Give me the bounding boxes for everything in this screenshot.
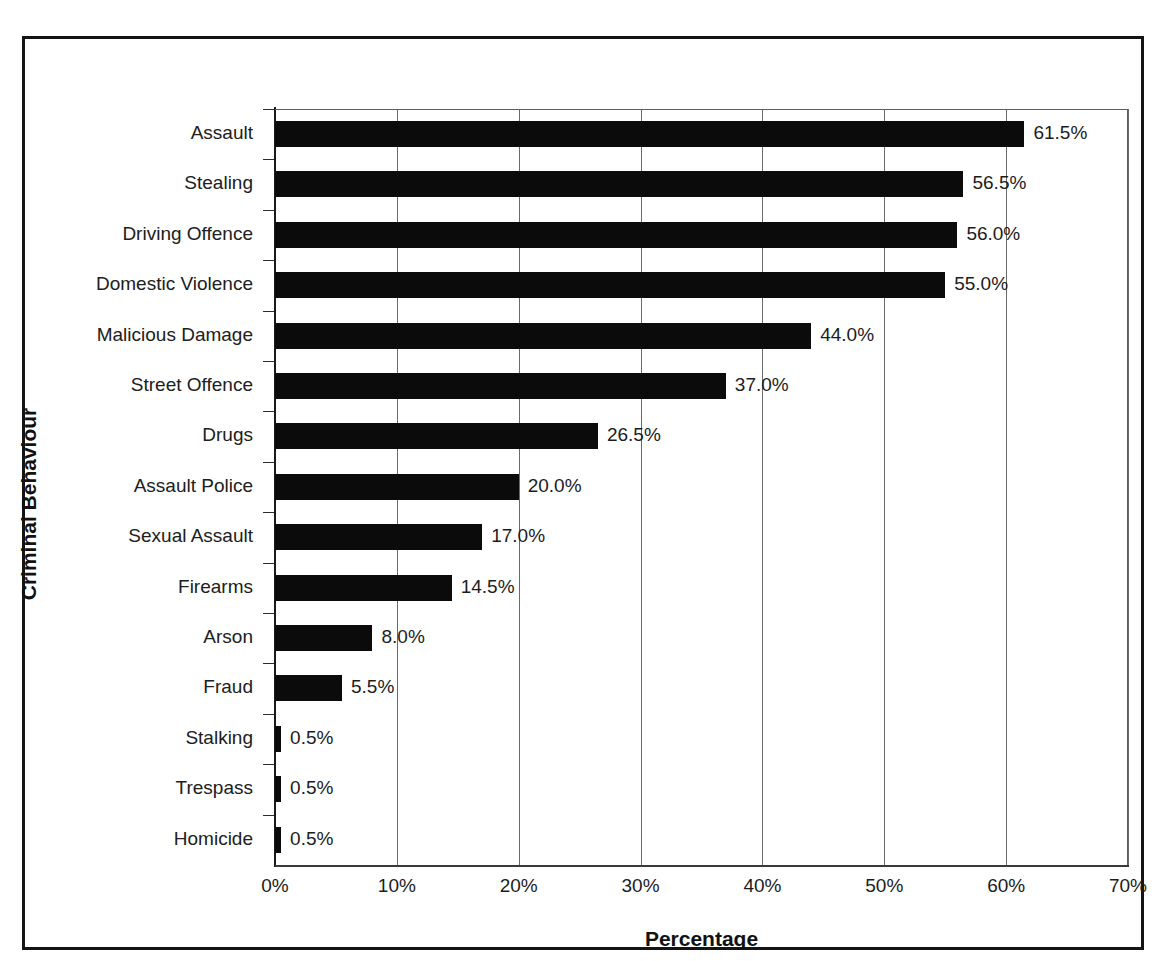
y-axis-tick	[263, 361, 274, 362]
category-label: Arson	[203, 624, 253, 650]
y-axis-tick	[263, 613, 274, 614]
y-axis-tick	[263, 815, 274, 816]
y-axis-tick	[263, 714, 274, 715]
bar-row: Driving Offence56.0%	[275, 210, 1128, 260]
bar-value-label: 56.0%	[957, 221, 1020, 247]
bar-value-label: 17.0%	[482, 523, 545, 549]
bar	[275, 121, 1024, 147]
bar-row: Trespass0.5%	[275, 764, 1128, 814]
bar-value-label: 0.5%	[281, 725, 333, 751]
y-axis-tick	[263, 512, 274, 513]
x-tick-label: 40%	[743, 875, 781, 897]
bar	[275, 222, 957, 248]
bar-row: Stealing56.5%	[275, 159, 1128, 209]
bar	[275, 625, 372, 651]
bar-value-label: 56.5%	[963, 170, 1026, 196]
bar	[275, 373, 726, 399]
x-tick-label: 50%	[865, 875, 903, 897]
bar-row: Street Offence37.0%	[275, 361, 1128, 411]
category-label: Fraud	[203, 674, 253, 700]
bar-row: Drugs26.5%	[275, 411, 1128, 461]
category-label: Street Offence	[131, 372, 253, 398]
category-label: Stalking	[185, 725, 253, 751]
bar	[275, 675, 342, 701]
bar-row: Arson8.0%	[275, 613, 1128, 663]
bar	[275, 171, 963, 197]
y-axis-tick	[263, 159, 274, 160]
plot-area: Assault61.5%Stealing56.5%Driving Offence…	[275, 109, 1128, 865]
y-axis-title: Criminal Behaviour	[17, 339, 41, 669]
bar-row: Firearms14.5%	[275, 563, 1128, 613]
category-label: Homicide	[174, 826, 253, 852]
y-axis-tick	[263, 260, 274, 261]
bar	[275, 423, 598, 449]
category-label: Firearms	[178, 574, 253, 600]
bar-value-label: 55.0%	[945, 271, 1008, 297]
bar-row: Sexual Assault17.0%	[275, 512, 1128, 562]
bar-value-label: 0.5%	[281, 826, 333, 852]
category-label: Domestic Violence	[96, 271, 253, 297]
bar-value-label: 61.5%	[1024, 120, 1087, 146]
x-axis-title: Percentage	[275, 927, 1128, 951]
bar-row: Domestic Violence55.0%	[275, 260, 1128, 310]
bar-value-label: 5.5%	[342, 674, 394, 700]
y-axis-tick	[263, 462, 274, 463]
y-axis-tick	[263, 563, 274, 564]
x-tick-label: 70%	[1109, 875, 1147, 897]
bar-row: Fraud5.5%	[275, 663, 1128, 713]
bar	[275, 524, 482, 550]
x-axis-line	[275, 865, 1129, 867]
bar	[275, 323, 811, 349]
x-tick-label: 60%	[987, 875, 1025, 897]
category-label: Drugs	[202, 422, 253, 448]
y-axis-tick	[263, 311, 274, 312]
category-label: Assault Police	[134, 473, 253, 499]
bar-value-label: 37.0%	[726, 372, 789, 398]
y-axis-tick	[263, 764, 274, 765]
bar-row: Assault61.5%	[275, 109, 1128, 159]
y-axis-tick	[263, 109, 274, 110]
bar-row: Stalking0.5%	[275, 714, 1128, 764]
x-tick-label: 30%	[622, 875, 660, 897]
bar-value-label: 44.0%	[811, 322, 874, 348]
bar-row: Assault Police20.0%	[275, 462, 1128, 512]
bar-value-label: 20.0%	[519, 473, 582, 499]
category-label: Sexual Assault	[128, 523, 253, 549]
bar	[275, 474, 519, 500]
y-axis-tick	[263, 411, 274, 412]
x-tick-label: 10%	[378, 875, 416, 897]
x-tick-label: 20%	[500, 875, 538, 897]
figure-frame: Assault61.5%Stealing56.5%Driving Offence…	[22, 36, 1144, 950]
bar-value-label: 0.5%	[281, 775, 333, 801]
gridline-70	[1128, 109, 1129, 865]
bar	[275, 575, 452, 601]
bar	[275, 272, 945, 298]
category-label: Malicious Damage	[97, 322, 253, 348]
bar-value-label: 8.0%	[372, 624, 424, 650]
y-axis-tick	[263, 663, 274, 664]
x-tick-label: 0%	[261, 875, 288, 897]
category-label: Stealing	[184, 170, 253, 196]
category-label: Assault	[191, 120, 253, 146]
bar-value-label: 14.5%	[452, 574, 515, 600]
bar-value-label: 26.5%	[598, 422, 661, 448]
y-axis-tick	[263, 210, 274, 211]
category-label: Driving Offence	[122, 221, 253, 247]
category-label: Trespass	[176, 775, 253, 801]
bar-row: Homicide0.5%	[275, 815, 1128, 865]
bar-row: Malicious Damage44.0%	[275, 311, 1128, 361]
